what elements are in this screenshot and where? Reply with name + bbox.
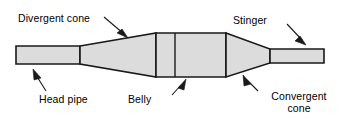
convergent-cone-arrowhead bbox=[243, 75, 251, 86]
label-belly: Belly bbox=[128, 93, 151, 105]
head-pipe-shape bbox=[16, 46, 80, 64]
label-divergent-cone: Divergent cone bbox=[18, 12, 90, 24]
convergent-cone-shape bbox=[226, 33, 270, 77]
belly-shape bbox=[156, 33, 226, 77]
label-stinger: Stinger bbox=[233, 14, 267, 26]
label-convergent-cone-line2: cone bbox=[263, 102, 335, 114]
stinger-shape bbox=[270, 49, 324, 63]
belly-arrowhead bbox=[178, 79, 186, 90]
head-pipe-arrowhead bbox=[33, 69, 41, 80]
label-convergent-cone: Convergent cone bbox=[263, 90, 335, 114]
stinger-arrowhead bbox=[295, 36, 306, 45]
label-convergent-cone-line1: Convergent bbox=[263, 90, 335, 102]
divergent-cone-shape bbox=[80, 33, 156, 77]
divergent-cone-arrowhead bbox=[117, 29, 128, 38]
label-head-pipe: Head pipe bbox=[39, 93, 88, 105]
expansion-chamber-diagram: Divergent cone Stinger Head pipe Belly C… bbox=[0, 0, 342, 124]
